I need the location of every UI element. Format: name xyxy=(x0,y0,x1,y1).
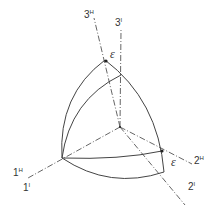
arc-inner-bottom xyxy=(62,151,162,158)
diagram-svg xyxy=(0,0,217,209)
label-1H: 1H xyxy=(13,167,23,178)
angle-epsilon-top: ε xyxy=(110,48,115,60)
vertex-right xyxy=(160,149,163,152)
label-1I: 1I xyxy=(23,182,30,193)
label-2I: 2I xyxy=(188,181,195,192)
arc-inner-left xyxy=(62,75,121,158)
axis-3I xyxy=(120,30,121,127)
angle-epsilon-right: ε xyxy=(171,156,176,168)
label-2H: 2H xyxy=(194,155,204,166)
origin xyxy=(119,126,121,128)
label-3I: 3I xyxy=(115,17,122,28)
diagram-canvas: 3H 3I 1H 1I 2H 2I ε ε xyxy=(0,0,217,209)
axis-1H xyxy=(28,127,120,178)
axis-3H xyxy=(94,18,120,127)
label-3H: 3H xyxy=(84,9,94,20)
arc-top-left-outer xyxy=(62,60,105,158)
vertex-top xyxy=(104,59,107,62)
